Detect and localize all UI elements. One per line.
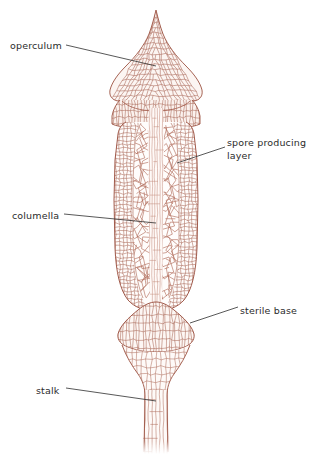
stalk-structure xyxy=(117,343,195,454)
label-stalk: stalk xyxy=(36,385,59,398)
leader-sterile-base xyxy=(190,307,238,323)
capsule-structure xyxy=(110,105,202,321)
leader-stalk xyxy=(66,388,156,401)
label-columella: columella xyxy=(12,210,59,223)
operculum-structure xyxy=(105,5,210,105)
label-operculum: operculum xyxy=(10,40,62,53)
label-spore-producing-layer: spore producinglayer xyxy=(227,137,306,162)
label-sterile-base: sterile base xyxy=(240,305,297,318)
